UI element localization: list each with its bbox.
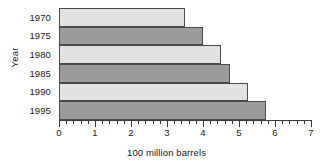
x-minor-tick xyxy=(246,120,247,124)
x-major-tick xyxy=(167,120,168,127)
x-major-tick xyxy=(95,120,96,127)
bar-1990 xyxy=(59,83,248,102)
x-minor-tick xyxy=(225,120,226,124)
x-minor-tick xyxy=(145,120,146,124)
plot-area xyxy=(59,8,311,120)
bar-series xyxy=(59,8,311,120)
x-minor-tick xyxy=(73,120,74,124)
bar-chart: Year 1970 1975 1980 1985 1990 1995 01234… xyxy=(0,0,333,167)
x-minor-tick xyxy=(282,120,283,124)
x-minor-tick xyxy=(153,120,154,124)
x-minor-tick xyxy=(66,120,67,124)
x-minor-tick xyxy=(117,120,118,124)
y-tick-label: 1980 xyxy=(16,45,55,64)
bar-row xyxy=(59,45,311,64)
bar-row xyxy=(59,8,311,27)
x-minor-tick xyxy=(189,120,190,124)
x-tick-label: 6 xyxy=(272,128,277,138)
x-tick-label: 7 xyxy=(308,128,313,138)
x-minor-tick xyxy=(160,120,161,124)
x-minor-tick xyxy=(88,120,89,124)
y-tick-label: 1970 xyxy=(16,8,55,27)
x-minor-tick xyxy=(304,120,305,124)
bar-1995 xyxy=(59,101,266,120)
x-minor-tick xyxy=(196,120,197,124)
bar-row xyxy=(59,27,311,46)
y-axis-tick-labels: 1970 1975 1980 1985 1990 1995 xyxy=(16,8,55,120)
x-major-tick xyxy=(311,120,312,127)
x-minor-tick xyxy=(109,120,110,124)
bar-1980 xyxy=(59,45,221,64)
bar-1970 xyxy=(59,8,185,27)
x-major-tick xyxy=(131,120,132,127)
bar-row xyxy=(59,83,311,102)
x-major-tick xyxy=(275,120,276,127)
x-tick-label: 0 xyxy=(56,128,61,138)
x-minor-tick xyxy=(124,120,125,124)
x-minor-tick xyxy=(138,120,139,124)
x-minor-tick xyxy=(217,120,218,124)
bar-1985 xyxy=(59,64,230,83)
y-tick-label: 1985 xyxy=(16,64,55,83)
x-tick-label: 4 xyxy=(200,128,205,138)
y-tick-label: 1975 xyxy=(16,27,55,46)
x-axis-title: 100 million barrels xyxy=(0,147,333,158)
bar-row xyxy=(59,64,311,83)
x-major-tick xyxy=(239,120,240,127)
x-minor-tick xyxy=(297,120,298,124)
x-tick-label: 1 xyxy=(92,128,97,138)
x-tick-label: 5 xyxy=(236,128,241,138)
x-minor-tick xyxy=(181,120,182,124)
x-major-tick xyxy=(59,120,60,127)
x-minor-tick xyxy=(261,120,262,124)
x-minor-tick xyxy=(210,120,211,124)
bar-1975 xyxy=(59,27,203,46)
x-minor-tick xyxy=(289,120,290,124)
x-minor-tick xyxy=(81,120,82,124)
x-tick-label: 3 xyxy=(164,128,169,138)
x-minor-tick xyxy=(174,120,175,124)
bar-row xyxy=(59,101,311,120)
y-tick-label: 1990 xyxy=(16,83,55,102)
x-minor-tick xyxy=(253,120,254,124)
x-minor-tick xyxy=(232,120,233,124)
x-tick-label: 2 xyxy=(128,128,133,138)
x-minor-tick xyxy=(102,120,103,124)
x-major-tick xyxy=(203,120,204,127)
y-tick-label: 1995 xyxy=(16,101,55,120)
x-minor-tick xyxy=(268,120,269,124)
